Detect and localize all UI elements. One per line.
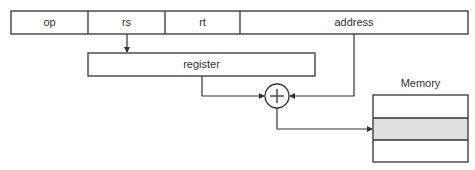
register-to-adder-arrow [202, 76, 264, 96]
field-op-label: op [11, 17, 88, 28]
adder-to-memory-arrow [277, 108, 372, 129]
field-address-label: address [240, 17, 468, 28]
memory-label: Memory [373, 78, 468, 89]
field-rt-label: rt [165, 17, 240, 28]
field-rs-label: rs [88, 17, 165, 28]
register-label: register [88, 59, 315, 70]
adder-icon [265, 84, 289, 108]
memory-row-highlighted [373, 118, 468, 140]
memory-block [373, 95, 468, 162]
